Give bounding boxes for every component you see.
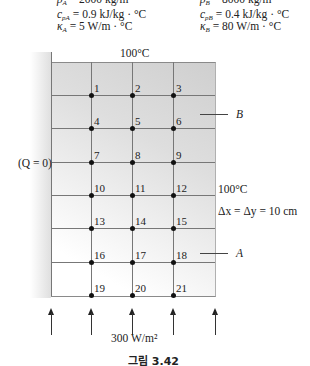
bottom-heat-flux: 300 W/m² (111, 332, 157, 344)
node-label: 17 (135, 250, 146, 261)
k-a: κA = 5 W/m · °C (57, 20, 132, 36)
rho-b-value: = 8000 kg/m³ (213, 0, 275, 5)
region-b-label: B (236, 108, 243, 120)
k-subscript: A (63, 26, 67, 34)
k-b: κB = 80 W/m · °C (200, 20, 281, 36)
top-temperature: 100°C (120, 47, 150, 59)
node-label: 13 (94, 216, 105, 227)
node-label: 19 (94, 283, 105, 294)
node-label: 9 (176, 150, 182, 161)
leader-line-b (200, 114, 228, 115)
flux-arrow-shaft (215, 313, 216, 335)
node-label: 15 (176, 216, 187, 227)
region-a-label: A (236, 247, 243, 259)
cp-b-value: = 0.4 kJ/kg · °C (216, 8, 289, 20)
insulated-left-wall (51, 52, 52, 296)
rho-a-value: = 2000 kg/m³ (70, 0, 132, 5)
node-label: 10 (94, 183, 105, 194)
leader-line-a (200, 253, 228, 254)
node-label: 7 (94, 150, 100, 161)
node-label: 1 (94, 83, 100, 94)
k-a-value: = 5 W/m · °C (70, 20, 133, 32)
rho-subscript: A (63, 0, 67, 7)
flux-arrow-shaft (91, 313, 92, 335)
figure-caption: 그림 3.42 (128, 352, 179, 366)
k-subscript: B (206, 26, 210, 34)
node-label: 12 (176, 183, 187, 194)
cp-a-value: = 0.9 kJ/kg · °C (73, 8, 146, 20)
grid-spacing-label: Δx = Δy = 10 cm (218, 205, 297, 217)
node-label: 11 (135, 183, 146, 194)
node-label: 18 (176, 250, 187, 261)
rho-subscript: B (206, 0, 210, 7)
node-label: 2 (135, 83, 141, 94)
insulated-wall-shadow (30, 52, 51, 298)
node-label: 6 (176, 116, 182, 127)
k-b-value: = 80 W/m · °C (213, 20, 281, 32)
right-temperature: 100°C (218, 183, 248, 195)
node-label: 3 (176, 83, 182, 94)
flux-arrow-shaft (51, 313, 52, 335)
node-label: 4 (94, 116, 100, 127)
node-label: 21 (176, 283, 187, 294)
flux-arrow-shaft (173, 313, 174, 335)
node-label: 14 (135, 216, 146, 227)
node-label: 8 (135, 150, 141, 161)
left-boundary-condition: (Q = 0) (18, 157, 52, 169)
node-label: 16 (94, 250, 105, 261)
node-label: 20 (135, 283, 146, 294)
node-label: 5 (135, 116, 141, 127)
